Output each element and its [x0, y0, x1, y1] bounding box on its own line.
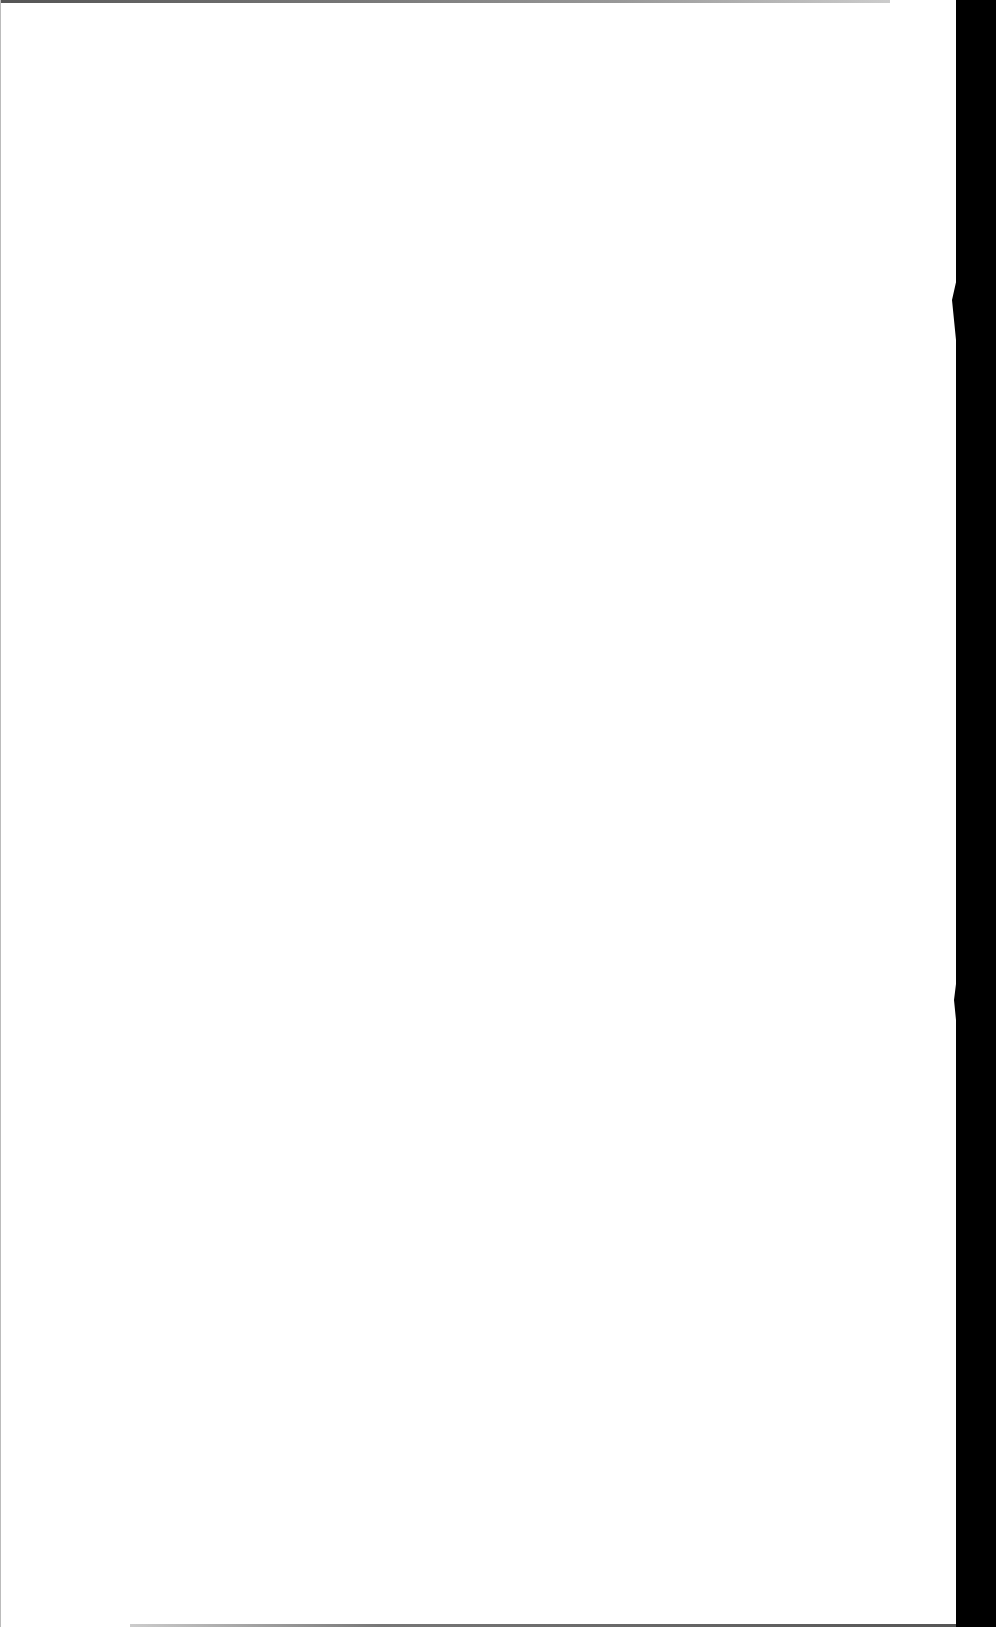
torn-edge-icon [944, 0, 968, 1627]
page-left-edge [0, 0, 1, 1627]
scanned-document [0, 0, 996, 1627]
blank-page [0, 0, 965, 1627]
page-top-edge [0, 0, 890, 3]
torn-dark-edge [956, 0, 996, 1627]
